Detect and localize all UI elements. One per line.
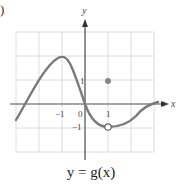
filled-point <box>105 78 111 84</box>
open-point <box>105 124 111 130</box>
tick-y-neg1: −1 <box>72 122 82 132</box>
tick-y-1: 1 <box>80 76 85 86</box>
y-axis-label: y <box>81 5 87 16</box>
caption: y = g(x) <box>0 164 182 181</box>
graph-of-g: x y −1 0 1 1 −1 <box>0 0 182 190</box>
x-axis-arrow-icon <box>161 101 169 107</box>
y-axis-arrow-icon <box>82 19 88 27</box>
x-axis-label: x <box>170 98 176 109</box>
tick-x-neg1: −1 <box>55 109 65 119</box>
curve-g <box>16 57 158 127</box>
tick-origin: 0 <box>78 109 83 119</box>
tick-x-1: 1 <box>106 109 111 119</box>
